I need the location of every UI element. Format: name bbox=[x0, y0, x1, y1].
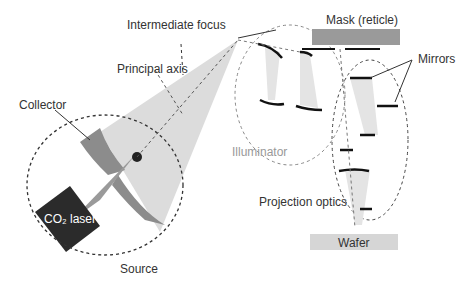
mask-reticle bbox=[312, 29, 400, 45]
label-principal-axis: Principal axis bbox=[117, 62, 188, 76]
label-co2-laser: CO₂ laser bbox=[44, 212, 96, 226]
label-projection-optics: Projection optics bbox=[259, 195, 347, 209]
label-source: Source bbox=[120, 262, 158, 276]
label-collector: Collector bbox=[19, 98, 66, 112]
label-mask: Mask (reticle) bbox=[326, 13, 398, 27]
label-intermediate-focus: Intermediate focus bbox=[127, 18, 226, 32]
label-wafer: Wafer bbox=[338, 236, 370, 250]
label-illuminator: Illuminator bbox=[232, 145, 287, 159]
label-mirrors: Mirrors bbox=[418, 52, 455, 66]
illuminator-boundary bbox=[235, 25, 345, 165]
